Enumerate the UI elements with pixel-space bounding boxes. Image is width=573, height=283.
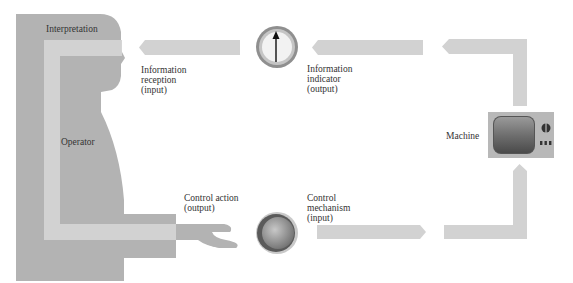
knob-icon: [256, 212, 298, 254]
arrow-information-reception: [139, 40, 240, 55]
arrow-control-mechanism: [317, 225, 426, 239]
label-information-reception: Information reception (input): [141, 65, 186, 95]
label-control-action: Control action (output): [184, 193, 239, 213]
label-control-mechanism: Control mechanism (input): [307, 193, 350, 223]
dial-gauge-icon: [256, 26, 298, 68]
arrow-information-indicator: [312, 40, 423, 55]
arrow-machine-to-indicator: [442, 39, 527, 106]
arrow-to-machine: [444, 164, 527, 239]
label-interpretation: Interpretation: [46, 24, 98, 34]
label-machine: Machine: [446, 131, 479, 141]
television-icon: [488, 112, 554, 158]
label-operator: Operator: [61, 137, 95, 147]
label-information-indicator: Information indicator (output): [307, 64, 352, 94]
